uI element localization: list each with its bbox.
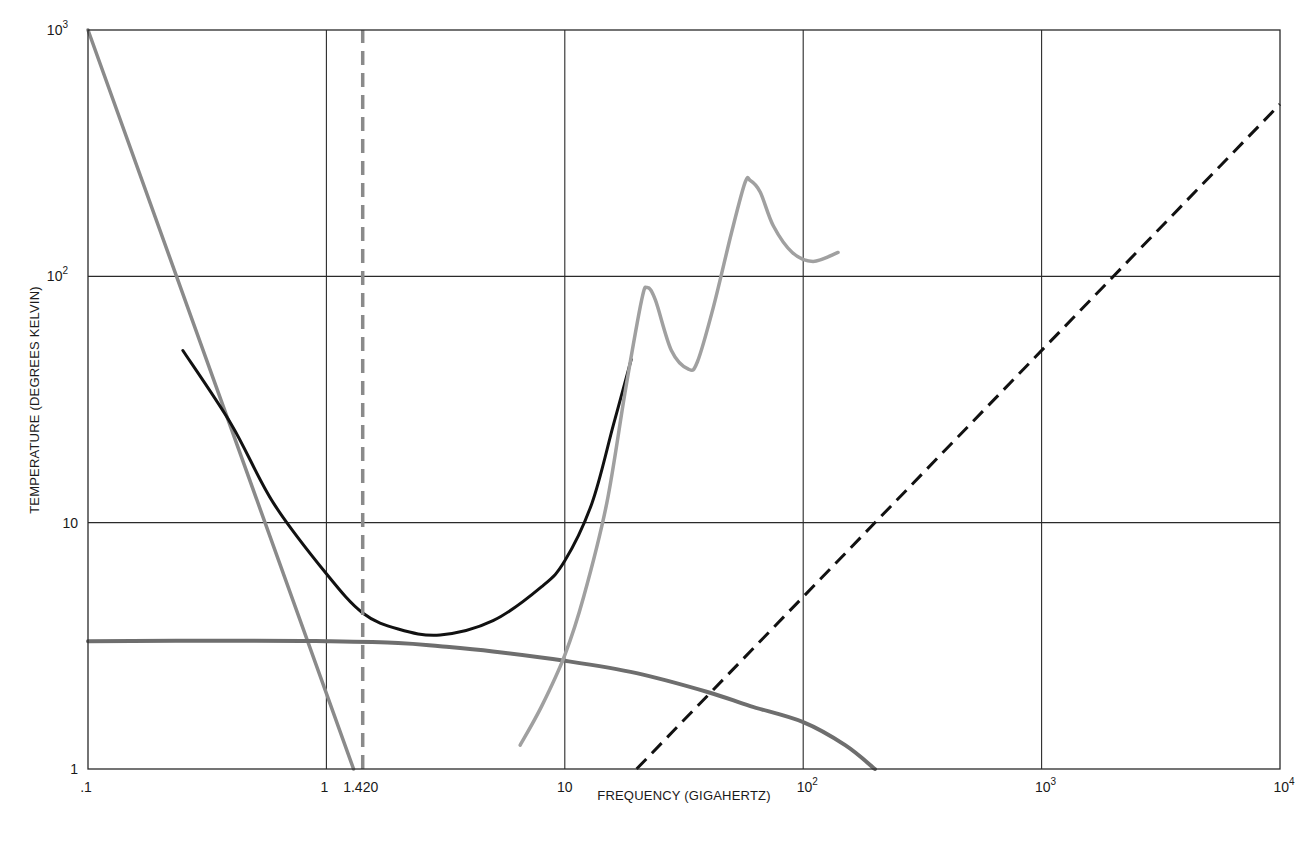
x-tick-label: 102 (797, 776, 819, 795)
x-tick-label: 103 (1035, 776, 1057, 795)
plot-frame (88, 30, 1280, 769)
grid-lines (88, 30, 1280, 769)
data-series (88, 30, 1280, 769)
y-axis-title: TEMPERATURE (DEGREES KELVIN) (27, 286, 42, 514)
x-tick-label: 1 (321, 779, 329, 795)
y-tick-label: 10 (62, 515, 78, 531)
series-quantum-noise-limit (637, 104, 1280, 769)
y-axis-ticks: 110102103 (47, 19, 78, 777)
y-tick-label: 102 (47, 265, 69, 284)
series-cosmic-background-3K (88, 641, 875, 769)
chart: .111.42010102103104 110102103 FREQUENCY … (0, 0, 1313, 848)
x-tick-label: 10 (557, 779, 573, 795)
series-galactic-background (88, 30, 354, 769)
x-tick-label: .1 (80, 779, 92, 795)
x-axis-title: FREQUENCY (GIGAHERTZ) (597, 788, 770, 803)
y-tick-label: 103 (47, 19, 69, 38)
x-tick-label: 104 (1273, 776, 1295, 795)
plot-border (88, 30, 1280, 769)
y-tick-label: 1 (70, 761, 78, 777)
series-total-sky-noise (183, 350, 631, 635)
x-tick-label: 1.420 (343, 779, 378, 795)
